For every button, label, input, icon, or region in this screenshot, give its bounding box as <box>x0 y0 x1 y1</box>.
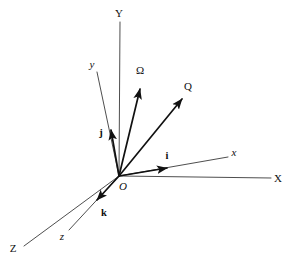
vector-k <box>97 176 119 200</box>
body-axes-group <box>69 72 228 230</box>
axis-label-Y: Y <box>115 8 123 19</box>
fixed-axes-group <box>24 22 271 246</box>
vector-diagram-figure: Y X Z y x z Ω Q j i k O <box>0 0 287 260</box>
diagram-canvas <box>0 0 287 260</box>
axis-line-Y <box>119 22 120 176</box>
axis-line-X <box>119 176 271 178</box>
vector-label-omega: Ω <box>136 65 144 76</box>
axis-label-x: x <box>232 147 237 158</box>
vector-label-Q: Q <box>184 81 192 92</box>
vector-label-i: i <box>166 151 169 162</box>
axis-label-y: y <box>90 59 95 70</box>
vector-label-j: j <box>99 128 103 139</box>
vector-j <box>111 130 119 176</box>
axis-label-Z: Z <box>10 243 17 254</box>
axis-label-X: X <box>274 173 282 184</box>
vector-i <box>119 168 167 176</box>
origin-label: O <box>119 181 127 192</box>
vector-label-k: k <box>101 208 107 219</box>
axis-label-z: z <box>60 231 64 242</box>
